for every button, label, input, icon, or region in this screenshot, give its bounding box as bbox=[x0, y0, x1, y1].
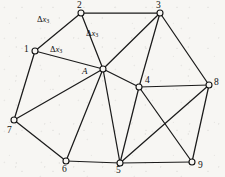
mesh-node-1 bbox=[32, 48, 38, 54]
mesh-edge-4-5 bbox=[120, 87, 139, 163]
mesh-edge-8-9 bbox=[192, 85, 209, 162]
mesh-graph-canvas bbox=[0, 0, 225, 177]
mesh-node-4 bbox=[136, 84, 142, 90]
edge-annotation-2-A: Δx3 bbox=[86, 29, 98, 38]
mesh-figure: 123456789A Δx3Δx3Δx3 bbox=[0, 0, 225, 177]
mesh-node-A bbox=[100, 66, 106, 72]
node-label-4: 4 bbox=[145, 76, 150, 86]
mesh-edge-5-6 bbox=[66, 161, 120, 163]
mesh-edge-2-A bbox=[81, 13, 103, 69]
node-label-8: 8 bbox=[214, 78, 219, 88]
node-label-A: A bbox=[82, 67, 88, 76]
mesh-node-2 bbox=[78, 10, 84, 16]
nodes-group bbox=[11, 10, 212, 166]
variable-subscript: 3 bbox=[59, 48, 62, 54]
mesh-edge-4-9 bbox=[139, 87, 192, 162]
mesh-edge-5-8 bbox=[120, 85, 209, 163]
node-label-9: 9 bbox=[198, 161, 203, 171]
variable-subscript: 3 bbox=[46, 18, 49, 24]
mesh-edge-5-9 bbox=[120, 162, 192, 163]
edges-group bbox=[14, 13, 209, 163]
mesh-node-9 bbox=[189, 159, 195, 165]
mesh-edge-3-8 bbox=[160, 13, 209, 85]
node-label-1: 1 bbox=[24, 45, 29, 55]
mesh-edge-6-A bbox=[66, 69, 103, 161]
node-label-3: 3 bbox=[156, 1, 161, 11]
variable-subscript: 3 bbox=[95, 32, 98, 38]
node-label-7: 7 bbox=[7, 126, 12, 136]
edge-annotation-1-A: Δx3 bbox=[50, 45, 62, 54]
mesh-node-7 bbox=[11, 117, 17, 123]
mesh-edge-1-A bbox=[35, 51, 103, 69]
mesh-node-3 bbox=[157, 10, 163, 16]
mesh-node-8 bbox=[206, 82, 212, 88]
node-label-2: 2 bbox=[77, 1, 82, 11]
mesh-edge-6-7 bbox=[14, 120, 66, 161]
mesh-edge-5-A bbox=[103, 69, 120, 163]
node-label-6: 6 bbox=[62, 165, 67, 175]
node-label-5: 5 bbox=[116, 166, 121, 176]
mesh-edge-4-A bbox=[103, 69, 139, 87]
edge-annotation-1-2: Δx3 bbox=[37, 15, 49, 24]
